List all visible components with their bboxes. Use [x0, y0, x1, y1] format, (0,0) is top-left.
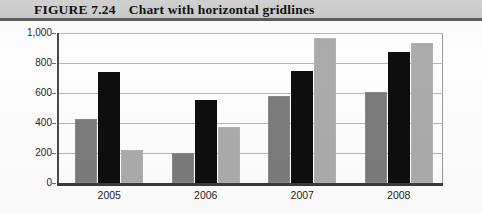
x-tick-label: 2007 — [267, 189, 337, 201]
bar-chart: 02004006008001,000 2005200620072008 — [0, 21, 482, 213]
y-tick-label: 1,000 — [6, 28, 52, 38]
plot-area — [57, 33, 443, 184]
y-tick-mark — [52, 93, 56, 94]
y-tick-mark — [52, 33, 56, 34]
figure-page: FIGURE 7.24Chart with horizontal gridlin… — [0, 0, 482, 213]
y-tick-label: 600 — [6, 88, 52, 98]
y-tick-label: 400 — [6, 118, 52, 128]
bar — [291, 71, 313, 183]
y-tick-mark — [52, 123, 56, 124]
bar — [411, 43, 433, 183]
bar — [172, 153, 194, 183]
bar — [121, 150, 143, 183]
plot-border-left — [57, 33, 59, 184]
bar — [314, 38, 336, 184]
x-tick-label: 2006 — [171, 189, 241, 201]
bar — [218, 127, 240, 183]
bar — [75, 119, 97, 183]
y-tick-label: 800 — [6, 58, 52, 68]
bar — [365, 92, 387, 183]
y-tick-label: 0 — [6, 178, 52, 188]
bar-group — [172, 33, 240, 183]
figure-caption-title: Chart with horizontal gridlines — [129, 2, 315, 17]
x-tick-label: 2005 — [74, 189, 144, 201]
bar — [268, 96, 290, 183]
y-tick-mark — [52, 63, 56, 64]
bar-group — [268, 33, 336, 183]
y-tick-mark — [52, 183, 56, 184]
y-tick-label: 200 — [6, 148, 52, 158]
bar-group — [365, 33, 433, 183]
bar — [195, 100, 217, 183]
bar — [388, 52, 410, 183]
bar-group — [75, 33, 143, 183]
x-axis-line — [57, 183, 443, 186]
plot-border-right — [442, 33, 443, 184]
figure-caption: FIGURE 7.24Chart with horizontal gridlin… — [34, 1, 315, 18]
y-axis: 02004006008001,000 — [0, 33, 52, 188]
y-tick-mark — [52, 153, 56, 154]
x-tick-label: 2008 — [364, 189, 434, 201]
figure-caption-number: FIGURE 7.24 — [34, 2, 116, 17]
bar — [98, 72, 120, 183]
x-axis: 2005200620072008 — [57, 187, 443, 207]
